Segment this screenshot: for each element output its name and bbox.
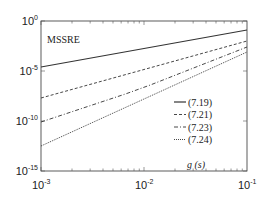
x-axis-label-text: g (s) — [187, 159, 206, 171]
y-tick-label: 10-15 — [16, 164, 38, 177]
x-tick-label: 10-1 — [238, 178, 257, 191]
x-tick-label: 10-3 — [32, 178, 51, 191]
y-tick-label: 10-10 — [16, 114, 38, 127]
legend-label: (7.19) — [188, 97, 212, 109]
legend-label: (7.23) — [188, 122, 212, 134]
legend-label: (7.24) — [188, 134, 212, 146]
x-axis-label: g (s) — [187, 159, 206, 171]
x-axis-tick-labels: 10-310-210-1 — [32, 178, 257, 191]
mssre-chart: MSSRE (7.19)(7.21)(7.23)(7.24) g (s) 10-… — [0, 0, 268, 197]
y-tick-label: 10-5 — [20, 64, 39, 77]
annotation-mssre: MSSRE — [47, 34, 80, 45]
y-tick-label: 100 — [22, 14, 38, 27]
legend-label: (7.21) — [188, 109, 212, 121]
y-axis-tick-labels: 10010-510-1010-15 — [16, 14, 38, 177]
x-tick-label: 10-2 — [135, 178, 154, 191]
